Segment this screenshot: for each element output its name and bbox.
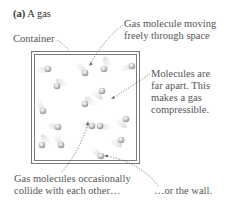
container-leader — [57, 40, 70, 52]
gas-diagram — [0, 0, 228, 201]
